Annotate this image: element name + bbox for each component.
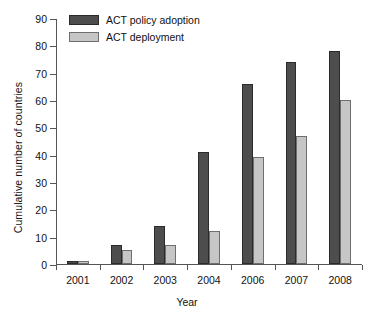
x-tick-label: 2001 [66, 274, 89, 286]
bar [67, 261, 78, 264]
bar [296, 136, 307, 264]
y-axis-title: Cumulative number of countries [9, 0, 27, 316]
x-tick-label: 2007 [285, 274, 308, 286]
x-axis-line [56, 264, 362, 265]
bar [286, 62, 297, 264]
y-axis-title-text: Cumulative number of countries [12, 82, 24, 233]
y-tick-label: 60 [35, 96, 47, 107]
bar [111, 245, 122, 264]
y-tick [50, 128, 56, 129]
chart-legend: ACT policy adoptionACT deployment [69, 15, 200, 42]
x-tick [56, 265, 57, 270]
bar [122, 250, 133, 264]
x-tick [275, 265, 276, 270]
y-tick-label: 40 [35, 150, 47, 161]
y-tick-label: 70 [35, 68, 47, 79]
bar [242, 84, 253, 264]
x-tick [231, 265, 232, 270]
y-tick-label: 90 [35, 14, 47, 25]
x-axis-title: Year [0, 296, 374, 308]
y-tick [50, 74, 56, 75]
x-tick-label: 2002 [110, 274, 133, 286]
y-tick-label: 30 [35, 178, 47, 189]
y-tick-label: 80 [35, 41, 47, 52]
x-tick-label: 2003 [154, 274, 177, 286]
bar [154, 226, 165, 264]
bar [340, 100, 351, 264]
legend-swatch [69, 32, 99, 42]
bar [329, 51, 340, 264]
legend-label: ACT policy adoption [106, 15, 200, 26]
y-tick-label: 10 [35, 232, 47, 243]
bar [165, 245, 176, 264]
plot-area: 0102030405060708090 20012002200320042006… [56, 19, 362, 265]
x-tick [362, 265, 363, 270]
x-tick [187, 265, 188, 270]
x-tick [318, 265, 319, 270]
y-tick-label: 50 [35, 123, 47, 134]
x-tick [143, 265, 144, 270]
bar [198, 152, 209, 264]
x-tick-label: 2006 [241, 274, 264, 286]
y-tick [50, 156, 56, 157]
legend-item: ACT deployment [69, 32, 200, 43]
y-axis-line [56, 19, 57, 265]
y-tick [50, 101, 56, 102]
y-tick-label: 20 [35, 205, 47, 216]
legend-item: ACT policy adoption [69, 15, 200, 26]
y-tick [50, 238, 56, 239]
x-tick [100, 265, 101, 270]
bar [78, 261, 89, 264]
y-tick [50, 19, 56, 20]
y-tick [50, 183, 56, 184]
x-axis-title-text: Year [176, 296, 197, 308]
bar [253, 157, 264, 264]
legend-swatch [69, 15, 99, 25]
bar [209, 231, 220, 264]
x-tick-label: 2004 [197, 274, 220, 286]
y-tick [50, 210, 56, 211]
legend-label: ACT deployment [106, 32, 184, 43]
y-tick-label: 0 [41, 260, 47, 271]
bar-chart-figure: Cumulative number of countries 010203040… [0, 0, 374, 316]
x-tick-label: 2008 [328, 274, 351, 286]
y-tick [50, 46, 56, 47]
